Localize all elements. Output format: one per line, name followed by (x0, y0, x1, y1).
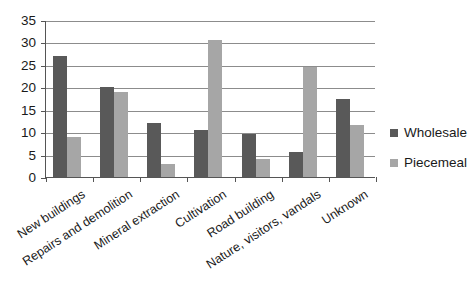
bar[interactable] (147, 123, 161, 177)
bar[interactable] (53, 56, 67, 177)
y-axis-tick-label: 0 (0, 171, 36, 185)
bar-group (93, 21, 140, 177)
bar-group (235, 21, 282, 177)
bar-group (187, 21, 234, 177)
square-swatch-icon (390, 159, 398, 167)
x-axis-tick-mark (46, 177, 47, 182)
y-axis-tick-label: 10 (0, 126, 36, 140)
x-axis-tick-mark (235, 177, 236, 182)
bar[interactable] (289, 152, 303, 177)
bar-group (282, 21, 329, 177)
y-axis-tick-label: 30 (0, 36, 36, 50)
y-axis-tick-label: 15 (0, 104, 36, 118)
bar[interactable] (114, 92, 128, 177)
legend-label: Wholesale (404, 126, 467, 140)
bar[interactable] (350, 125, 364, 177)
x-axis-tick-mark (93, 177, 94, 182)
bar[interactable] (303, 67, 317, 177)
bar-group (140, 21, 187, 177)
chart-legend: WholesalePiecemeal (390, 122, 467, 182)
bar[interactable] (336, 99, 350, 178)
y-axis-tick-label: 5 (0, 149, 36, 163)
x-axis-tick-mark (282, 177, 283, 182)
bar[interactable] (100, 87, 114, 177)
bar[interactable] (242, 134, 256, 177)
x-axis-tick-mark (187, 177, 188, 182)
x-axis-tick-mark (329, 177, 330, 182)
bar[interactable] (208, 40, 222, 177)
x-axis-tick-mark (140, 177, 141, 182)
bar-group (329, 21, 376, 177)
plot-area (45, 21, 375, 178)
bar[interactable] (256, 159, 270, 177)
legend-item[interactable]: Wholesale (390, 122, 467, 144)
x-axis-tick-mark (376, 177, 377, 182)
square-swatch-icon (390, 129, 398, 137)
bar[interactable] (67, 137, 81, 177)
bar[interactable] (161, 164, 175, 177)
bar-group (46, 21, 93, 177)
legend-label: Piecemeal (404, 156, 467, 170)
y-axis-tick-label: 20 (0, 81, 36, 95)
legend-item[interactable]: Piecemeal (390, 152, 467, 174)
y-axis-tick-label: 25 (0, 59, 36, 73)
y-axis-tick-label: 35 (0, 14, 36, 28)
bar-chart: 05101520253035 New buildingsRepairs and … (0, 0, 475, 297)
bar[interactable] (194, 130, 208, 177)
